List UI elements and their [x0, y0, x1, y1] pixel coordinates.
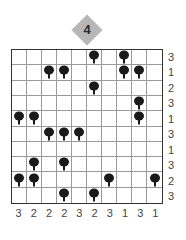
grid-cell-r7-c6[interactable]: [102, 157, 117, 172]
grid-cell-r8-c6[interactable]: [102, 172, 117, 187]
grid-cell-r1-c2[interactable]: [42, 65, 57, 80]
grid-cell-r4-c8[interactable]: [132, 111, 147, 126]
grid-cell-r6-c2[interactable]: [42, 142, 57, 157]
grid-cell-r0-c6[interactable]: [102, 50, 117, 65]
grid-cell-r9-c2[interactable]: [42, 188, 57, 203]
grid-cell-r6-c9[interactable]: [147, 142, 162, 157]
grid-cell-r4-c1[interactable]: [27, 111, 42, 126]
grid-cell-r8-c0[interactable]: [12, 172, 27, 187]
grid-cell-r3-c6[interactable]: [102, 96, 117, 111]
grid-cell-r5-c8[interactable]: [132, 127, 147, 142]
grid-cell-r9-c8[interactable]: [132, 188, 147, 203]
grid-cell-r3-c0[interactable]: [12, 96, 27, 111]
grid-cell-r2-c5[interactable]: [87, 81, 102, 96]
grid-cell-r6-c7[interactable]: [117, 142, 132, 157]
grid-cell-r4-c4[interactable]: [72, 111, 87, 126]
grid-cell-r7-c2[interactable]: [42, 157, 57, 172]
grid-cell-r9-c7[interactable]: [117, 188, 132, 203]
grid-cell-r7-c5[interactable]: [87, 157, 102, 172]
grid-cell-r3-c9[interactable]: [147, 96, 162, 111]
grid-cell-r0-c0[interactable]: [12, 50, 27, 65]
grid-cell-r2-c9[interactable]: [147, 81, 162, 96]
grid-cell-r3-c8[interactable]: [132, 96, 147, 111]
grid-cell-r0-c1[interactable]: [27, 50, 42, 65]
grid-cell-r8-c9[interactable]: [147, 172, 162, 187]
grid-cell-r5-c4[interactable]: [72, 127, 87, 142]
grid-cell-r0-c7[interactable]: [117, 50, 132, 65]
grid-cell-r1-c9[interactable]: [147, 65, 162, 80]
grid-cell-r6-c6[interactable]: [102, 142, 117, 157]
grid-cell-r4-c6[interactable]: [102, 111, 117, 126]
grid-cell-r8-c1[interactable]: [27, 172, 42, 187]
grid-cell-r7-c1[interactable]: [27, 157, 42, 172]
grid-cell-r0-c9[interactable]: [147, 50, 162, 65]
grid-cell-r7-c4[interactable]: [72, 157, 87, 172]
grid-cell-r5-c5[interactable]: [87, 127, 102, 142]
grid-cell-r6-c4[interactable]: [72, 142, 87, 157]
grid-cell-r7-c7[interactable]: [117, 157, 132, 172]
grid-cell-r5-c6[interactable]: [102, 127, 117, 142]
grid-cell-r0-c3[interactable]: [57, 50, 72, 65]
grid-cell-r7-c9[interactable]: [147, 157, 162, 172]
grid-cell-r9-c1[interactable]: [27, 188, 42, 203]
grid-cell-r8-c3[interactable]: [57, 172, 72, 187]
grid-cell-r1-c1[interactable]: [27, 65, 42, 80]
grid-cell-r4-c2[interactable]: [42, 111, 57, 126]
grid-cell-r0-c5[interactable]: [87, 50, 102, 65]
grid-cell-r9-c4[interactable]: [72, 188, 87, 203]
grid-cell-r3-c1[interactable]: [27, 96, 42, 111]
grid-cell-r3-c4[interactable]: [72, 96, 87, 111]
grid-cell-r5-c2[interactable]: [42, 127, 57, 142]
grid-cell-r2-c6[interactable]: [102, 81, 117, 96]
grid-cell-r9-c6[interactable]: [102, 188, 117, 203]
grid-cell-r5-c0[interactable]: [12, 127, 27, 142]
grid-cell-r8-c2[interactable]: [42, 172, 57, 187]
grid-cell-r7-c3[interactable]: [57, 157, 72, 172]
grid-cell-r2-c8[interactable]: [132, 81, 147, 96]
grid-cell-r4-c7[interactable]: [117, 111, 132, 126]
grid-cell-r1-c7[interactable]: [117, 65, 132, 80]
grid-cell-r6-c5[interactable]: [87, 142, 102, 157]
grid-cell-r0-c8[interactable]: [132, 50, 147, 65]
grid-cell-r1-c0[interactable]: [12, 65, 27, 80]
grid-cell-r1-c5[interactable]: [87, 65, 102, 80]
grid-cell-r1-c8[interactable]: [132, 65, 147, 80]
grid-cell-r3-c3[interactable]: [57, 96, 72, 111]
grid-cell-r6-c3[interactable]: [57, 142, 72, 157]
grid-cell-r5-c7[interactable]: [117, 127, 132, 142]
grid-cell-r6-c0[interactable]: [12, 142, 27, 157]
grid-cell-r4-c3[interactable]: [57, 111, 72, 126]
grid-cell-r1-c3[interactable]: [57, 65, 72, 80]
grid-cell-r2-c7[interactable]: [117, 81, 132, 96]
grid-cell-r0-c2[interactable]: [42, 50, 57, 65]
grid-cell-r1-c6[interactable]: [102, 65, 117, 80]
grid-cell-r5-c9[interactable]: [147, 127, 162, 142]
grid-cell-r9-c9[interactable]: [147, 188, 162, 203]
grid-cell-r5-c3[interactable]: [57, 127, 72, 142]
grid-cell-r3-c2[interactable]: [42, 96, 57, 111]
grid-cell-r3-c5[interactable]: [87, 96, 102, 111]
grid-cell-r8-c7[interactable]: [117, 172, 132, 187]
grid-cell-r1-c4[interactable]: [72, 65, 87, 80]
grid-cell-r5-c1[interactable]: [27, 127, 42, 142]
grid-cell-r2-c2[interactable]: [42, 81, 57, 96]
grid-cell-r0-c4[interactable]: [72, 50, 87, 65]
grid-cell-r4-c5[interactable]: [87, 111, 102, 126]
grid-cell-r3-c7[interactable]: [117, 96, 132, 111]
grid-cell-r9-c5[interactable]: [87, 188, 102, 203]
grid-cell-r2-c4[interactable]: [72, 81, 87, 96]
grid-cell-r2-c3[interactable]: [57, 81, 72, 96]
grid-cell-r2-c1[interactable]: [27, 81, 42, 96]
grid-cell-r6-c8[interactable]: [132, 142, 147, 157]
grid-cell-r4-c9[interactable]: [147, 111, 162, 126]
grid-cell-r7-c8[interactable]: [132, 157, 147, 172]
grid-cell-r8-c4[interactable]: [72, 172, 87, 187]
grid-cell-r4-c0[interactable]: [12, 111, 27, 126]
grid-cell-r8-c8[interactable]: [132, 172, 147, 187]
grid-cell-r6-c1[interactable]: [27, 142, 42, 157]
grid-cell-r8-c5[interactable]: [87, 172, 102, 187]
grid-cell-r9-c0[interactable]: [12, 188, 27, 203]
grid-cell-r7-c0[interactable]: [12, 157, 27, 172]
grid-cell-r9-c3[interactable]: [57, 188, 72, 203]
grid-cell-r2-c0[interactable]: [12, 81, 27, 96]
